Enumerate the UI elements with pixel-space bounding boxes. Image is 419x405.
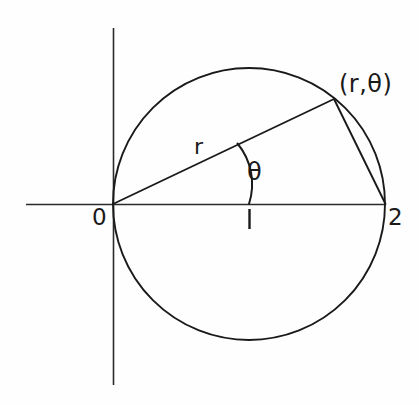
point-coordinates-label: (r,θ)	[339, 72, 392, 96]
radius-label: r	[194, 136, 203, 158]
axis-label-diameter-end: 2	[388, 206, 403, 229]
polar-circle-figure: 0 2 r θ (r,θ)	[0, 0, 419, 405]
chord-line	[334, 99, 386, 204]
axis-label-origin: 0	[92, 206, 107, 229]
figure-canvas	[0, 0, 419, 405]
angle-label: θ	[247, 160, 262, 184]
